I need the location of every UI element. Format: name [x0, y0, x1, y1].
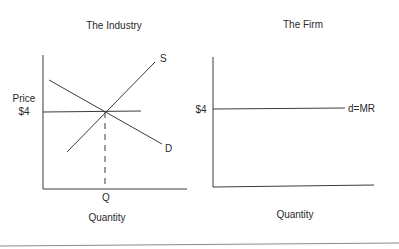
supply-label: S [160, 53, 167, 64]
diagram-canvas: The Industry S D Price $4 Q Quantity The… [0, 0, 399, 249]
demand-label: D [165, 143, 172, 154]
industry-title: The Industry [86, 20, 142, 31]
industry-q-tick: Q [102, 192, 110, 203]
industry-price-value: $4 [18, 106, 30, 117]
industry-panel: The Industry S D Price $4 Q Quantity [13, 20, 187, 223]
supply-curve [67, 62, 155, 152]
firm-x-axis [213, 185, 374, 187]
firm-panel: The Firm $4 d=MR Quantity [195, 19, 375, 220]
firm-x-label: Quantity [276, 209, 313, 220]
industry-x-label: Quantity [88, 212, 125, 223]
firm-title: The Firm [283, 19, 323, 30]
firm-demand-mr-line [213, 108, 345, 109]
industry-price-line [43, 111, 141, 112]
firm-curve-label: d=MR [348, 103, 375, 114]
firm-price-label: $4 [195, 104, 207, 115]
industry-y-label: Price [13, 93, 36, 104]
bottom-rule [0, 243, 399, 246]
